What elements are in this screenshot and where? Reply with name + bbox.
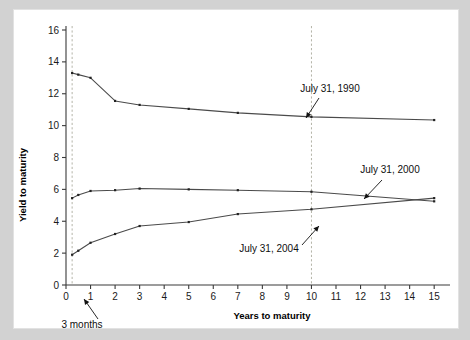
data-point-marker [188,188,190,190]
x-axis-ticks: 0123456789101112131415 [63,285,440,302]
data-point-marker [139,187,141,189]
x-tick-label: 6 [210,291,216,302]
x-tick-label: 1 [88,291,94,302]
x-tick-label: 13 [380,291,392,302]
data-point-marker [139,104,141,106]
data-point-marker [77,74,79,76]
data-point-marker [114,189,116,191]
x-tick-label: 7 [235,291,241,302]
annotation-3-months-label: 3 months [61,319,102,328]
y-tick-label: 8 [53,152,59,163]
y-tick-label: 0 [53,280,59,291]
data-point-marker [237,213,239,215]
x-tick-label: 12 [355,291,367,302]
series-line-july-31-2000 [72,189,434,202]
y-tick-label: 6 [53,184,59,195]
data-point-marker [237,189,239,191]
x-tick-label: 5 [186,291,192,302]
data-point-marker [89,190,91,192]
data-point-marker [114,233,116,235]
data-point-marker [89,77,91,79]
data-point-marker [433,200,435,202]
data-point-marker [139,225,141,227]
data-point-marker [188,221,190,223]
x-tick-label: 8 [260,291,266,302]
data-point-marker [77,250,79,252]
data-point-marker [433,119,435,121]
x-axis-title: Years to maturity [233,310,311,321]
data-point-marker [114,100,116,102]
y-tick-label: 10 [48,120,60,131]
x-tick-label: 10 [306,291,318,302]
x-tick-label: 11 [331,291,342,302]
x-tick-label: 2 [112,291,118,302]
y-tick-label: 14 [48,56,60,67]
annotation-2000-label: July 31, 2000 [360,164,420,175]
data-point-marker [310,208,312,210]
x-tick-label: 0 [63,291,69,302]
y-axis-ticks: 0246810121416 [48,25,66,291]
data-point-marker [310,191,312,193]
chart-figure: 0246810121416 0123456789101112131415 Jul… [0,0,470,340]
annotation-2004-label: July 31, 2004 [239,243,299,254]
y-tick-label: 2 [53,248,59,259]
y-axis-title: Yield to maturity [17,147,28,222]
series-line-july-31-1990 [72,73,434,120]
y-tick-label: 4 [53,216,59,227]
y-tick-label: 12 [48,88,60,99]
data-point-marker [237,112,239,114]
x-tick-label: 14 [404,291,416,302]
x-tick-label: 4 [161,291,167,302]
yield-curve-chart: 0246810121416 0123456789101112131415 Jul… [14,10,458,328]
x-tick-label: 3 [137,291,143,302]
data-point-marker [310,116,312,118]
data-point-marker [89,242,91,244]
data-point-marker [71,254,73,256]
chart-plate: 0246810121416 0123456789101112131415 Jul… [14,10,458,328]
y-tick-label: 16 [48,25,60,36]
x-tick-label: 15 [429,291,441,302]
data-point-marker [77,194,79,196]
data-point-marker [433,197,435,199]
x-tick-label: 9 [284,291,290,302]
data-point-marker [71,197,73,199]
annotation-1990-label: July 31, 1990 [300,83,360,94]
data-point-marker [71,72,73,74]
data-point-marker [188,108,190,110]
